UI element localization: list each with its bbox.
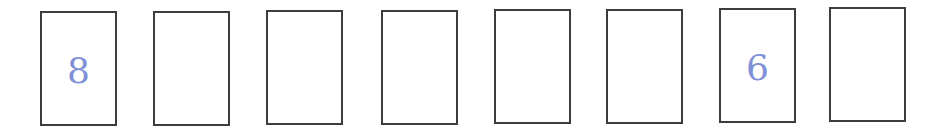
digit-box-1[interactable]: 8 xyxy=(40,11,117,126)
digit-box-5[interactable] xyxy=(494,9,571,124)
digit-box-8[interactable] xyxy=(829,7,906,122)
digit-box-4[interactable] xyxy=(381,10,458,125)
digit-box-7[interactable]: 6 xyxy=(719,8,796,123)
digit-box-2[interactable] xyxy=(153,11,230,126)
digit-box-row: 8 6 xyxy=(0,0,942,133)
digit-box-3[interactable] xyxy=(266,10,343,125)
digit-value: 8 xyxy=(67,53,90,89)
digit-box-6[interactable] xyxy=(606,9,683,124)
digit-value: 6 xyxy=(746,50,769,86)
